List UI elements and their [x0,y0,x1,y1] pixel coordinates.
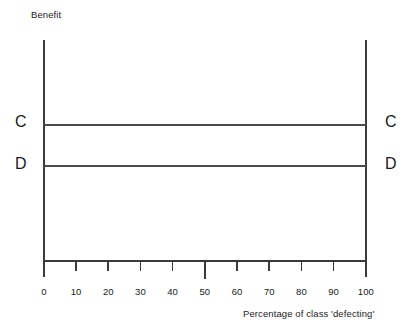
x-axis-tick-label-60: 60 [232,286,243,297]
x-axis-tick-70 [268,262,270,271]
x-axis-tick-label-80: 80 [296,286,307,297]
x-axis-tick-90 [333,262,335,271]
y-axis-right-line [365,40,367,277]
x-axis-tick-20 [107,262,109,271]
x-axis-tick-label-10: 10 [71,286,82,297]
x-axis-tick-label-20: 20 [103,286,114,297]
x-axis-tick-40 [172,262,174,271]
x-axis-tick-50 [204,262,206,279]
y-axis-left-line [43,40,45,277]
chart-canvas: Benefit C C D D 0102030405060708090100 P… [0,0,410,327]
series-line-d [43,165,367,167]
x-axis-tick-label-90: 90 [328,286,339,297]
x-axis-tick-label-100: 100 [358,286,374,297]
x-axis-tick-30 [140,262,142,271]
x-axis-tick-label-40: 40 [167,286,178,297]
series-label-c-left: C [15,113,27,131]
x-axis-tick-80 [301,262,303,271]
x-axis-tick-label-70: 70 [264,286,275,297]
y-axis-title: Benefit [31,9,61,21]
x-axis-tick-label-50: 50 [200,286,211,297]
series-label-c-right: C [385,113,397,131]
x-axis-tick-10 [75,262,77,271]
series-label-d-right: D [385,155,397,173]
series-line-c [43,124,367,126]
series-label-d-left: D [15,155,27,173]
x-axis-tick-label-30: 30 [135,286,146,297]
x-axis-tick-label-0: 0 [41,286,46,297]
x-axis-tick-60 [236,262,238,271]
x-axis-title: Percentage of class 'defecting' [243,308,374,320]
